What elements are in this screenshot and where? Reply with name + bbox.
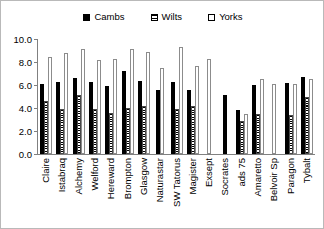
x-tick-label: Tybalt: [302, 158, 312, 183]
x-tick-cell: Magister: [185, 156, 201, 228]
bar-cambs[interactable]: [223, 95, 227, 154]
x-tick-cell: Exsept: [201, 156, 217, 228]
x-axis-line: [37, 154, 315, 155]
y-tick-mark: [34, 154, 37, 155]
bars-layer: [38, 39, 315, 154]
y-tick-label: 4.0: [19, 104, 32, 113]
bar-group: [234, 39, 250, 154]
bar-yorks[interactable]: [97, 60, 101, 154]
x-tick-label: Claire: [41, 158, 51, 183]
x-tick-cell: Tybalt: [299, 156, 315, 228]
x-tick-label: Welford: [90, 158, 100, 191]
x-tick-cell: Hereward: [103, 156, 119, 228]
y-tick-mark: [34, 85, 37, 86]
x-tick-cell: Welford: [87, 156, 103, 228]
bar-yorks[interactable]: [81, 49, 85, 154]
x-tick-label: Magister: [188, 158, 198, 194]
bar-group: [152, 39, 168, 154]
y-tick-label: 10.0: [14, 35, 33, 44]
bar-yorks[interactable]: [272, 84, 276, 154]
plot-area: 10.08.06.04.02.00.0: [37, 39, 315, 155]
bar-yorks[interactable]: [160, 68, 164, 154]
x-tick-label: Brompton: [123, 158, 133, 199]
bar-group: [250, 39, 266, 154]
bar-yorks[interactable]: [195, 66, 199, 154]
bar-group: [217, 39, 233, 154]
x-tick-cell: Alchemy: [71, 156, 87, 228]
x-tick-label: Socrates: [220, 158, 230, 196]
bar-group: [87, 39, 103, 154]
x-tick-cell: Belvoir Sp: [266, 156, 282, 228]
bar-yorks[interactable]: [64, 53, 68, 154]
bar-group: [71, 39, 87, 154]
x-tick-label: Exsept: [204, 158, 214, 187]
bar-group: [266, 39, 282, 154]
hatched-square-icon: [151, 14, 158, 21]
bar-group: [38, 39, 54, 154]
x-tick-label: Istabraq: [57, 158, 67, 192]
bar-group: [185, 39, 201, 154]
filled-black-square-icon: [83, 14, 90, 21]
x-tick-cell: SW Tatorus: [168, 156, 184, 228]
bar-group: [282, 39, 298, 154]
x-tick-label: Belvoir Sp: [269, 158, 279, 201]
x-tick-cell: Brompton: [119, 156, 135, 228]
legend-entry-yorks[interactable]: Yorks: [208, 12, 242, 22]
x-tick-label: Paragon: [286, 158, 296, 194]
x-tick-label: Glasgow: [139, 158, 149, 195]
x-tick-cell: Glasgow: [136, 156, 152, 228]
bar-group: [103, 39, 119, 154]
x-axis-category-labels: ClaireIstabraqAlchemyWelfordHerewardBrom…: [38, 156, 315, 228]
y-tick-label: 8.0: [19, 58, 32, 67]
bar-yorks[interactable]: [113, 59, 117, 154]
x-tick-cell: Amaretto: [250, 156, 266, 228]
bar-group: [168, 39, 184, 154]
x-tick-label: Naturastar: [155, 158, 165, 202]
bar-yorks[interactable]: [293, 84, 297, 154]
x-tick-label: SW Tatorus: [172, 158, 182, 207]
bar-yorks[interactable]: [48, 57, 52, 154]
bar-yorks[interactable]: [179, 47, 183, 154]
y-tick-label: 2.0: [19, 127, 32, 136]
bar-chart: CambsWiltsYorks 10.08.06.04.02.00.0 Clai…: [0, 0, 324, 229]
legend-label-yorks: Yorks: [219, 12, 242, 22]
bar-yorks[interactable]: [130, 49, 134, 154]
x-tick-cell: Claire: [38, 156, 54, 228]
x-tick-label: Alchemy: [74, 158, 84, 194]
y-tick-label: 0.0: [19, 150, 32, 159]
y-tick-mark: [34, 108, 37, 109]
legend-entry-cambs[interactable]: Cambs: [83, 12, 124, 22]
bar-yorks[interactable]: [207, 59, 211, 154]
bar-group: [201, 39, 217, 154]
y-tick-mark: [34, 62, 37, 63]
legend-entry-wilts[interactable]: Wilts: [151, 12, 183, 22]
legend-label-cambs: Cambs: [94, 12, 124, 22]
y-tick-label: 6.0: [19, 81, 32, 90]
bar-group: [119, 39, 135, 154]
x-tick-cell: Socrates: [217, 156, 233, 228]
bar-group: [136, 39, 152, 154]
x-tick-label: Amaretto: [253, 158, 263, 197]
bar-group: [299, 39, 315, 154]
chart-legend: CambsWiltsYorks: [1, 9, 324, 25]
x-tick-label: Hereward: [106, 158, 116, 199]
x-tick-cell: ads 75: [234, 156, 250, 228]
y-tick-mark: [34, 131, 37, 132]
bar-yorks[interactable]: [146, 52, 150, 154]
bar-yorks[interactable]: [260, 79, 264, 154]
x-tick-label: ads 75: [237, 158, 247, 187]
bar-yorks[interactable]: [309, 79, 313, 154]
y-tick-mark: [34, 39, 37, 40]
legend-label-wilts: Wilts: [162, 12, 183, 22]
bar-yorks[interactable]: [244, 114, 248, 154]
open-white-square-icon: [208, 14, 215, 21]
x-tick-cell: Paragon: [282, 156, 298, 228]
x-tick-cell: Istabraq: [54, 156, 70, 228]
x-tick-cell: Naturastar: [152, 156, 168, 228]
bar-group: [54, 39, 70, 154]
